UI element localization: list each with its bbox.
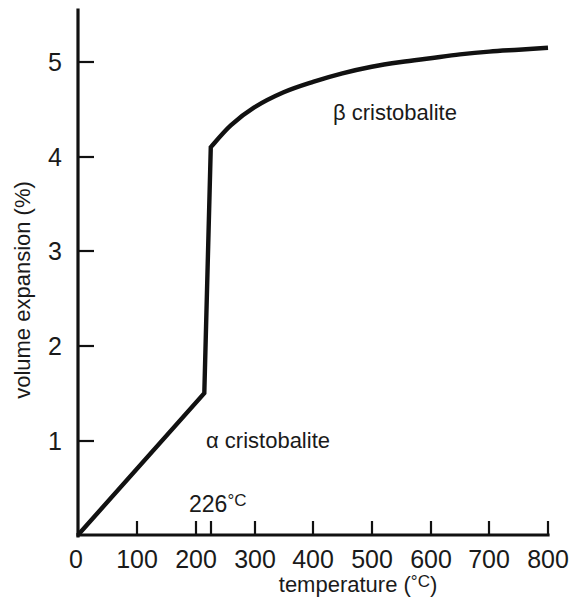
y-tick-label-2: 2 [48,332,62,360]
x-tick-label-200: 200 [175,545,217,573]
x-tick-label-800: 800 [527,545,569,573]
x-axis-title-close: ) [430,572,437,597]
expansion-curve [78,48,548,535]
x-tick-label-600: 600 [410,545,452,573]
x-tick-label-500: 500 [351,545,393,573]
x-tick-label-300: 300 [234,545,276,573]
x-tick-label-400: 400 [292,545,334,573]
transition-degree-symbol: °C [227,491,246,510]
y-axis-title: volume expansion (%) [10,181,35,399]
cristobalite-expansion-chart: 5 4 3 2 1 0 100 200 300 400 500 600 700 … [0,0,587,603]
alpha-cristobalite-label: α cristobalite [206,428,330,453]
transition-temperature-value: 226 [189,491,227,517]
x-tick-label-100: 100 [116,545,158,573]
x-tick-label-700: 700 [468,545,510,573]
x-tick-label-0: 0 [69,545,83,573]
chart-svg: 5 4 3 2 1 0 100 200 300 400 500 600 700 … [0,0,587,603]
y-tick-label-5: 5 [48,48,62,76]
x-axis-title: temperature (°C) [279,572,437,597]
beta-cristobalite-label: β cristobalite [333,100,457,125]
y-tick-label-4: 4 [48,143,62,171]
transition-temperature-label: 226°C [189,491,246,517]
x-axis-title-main: temperature ( [279,572,412,597]
y-tick-label-3: 3 [48,237,62,265]
y-tick-label-1: 1 [48,427,62,455]
x-axis-degree-symbol: °C [411,572,430,591]
